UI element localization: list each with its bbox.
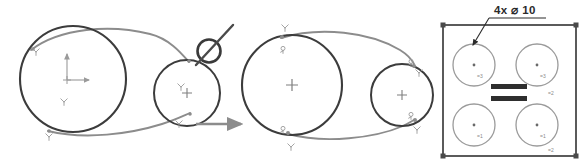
constraint-symbol-line <box>196 25 233 65</box>
origin-label-glyph-icon <box>61 99 67 106</box>
corner-marker <box>574 23 579 28</box>
tangent-glyph-icon <box>46 134 52 141</box>
tangent-constraint-symbol[interactable] <box>196 25 233 65</box>
tangent-glyph-icon <box>414 127 420 134</box>
corner-marker <box>441 154 446 159</box>
coincident-glyph-icon <box>409 112 413 119</box>
equal-bar-lower <box>491 96 527 101</box>
plate-outline[interactable] <box>443 25 576 156</box>
equal-bar-upper <box>491 84 527 89</box>
tangent-point <box>286 131 290 135</box>
hole-label-top-left: =3 <box>477 73 483 79</box>
corner-marker <box>574 154 579 159</box>
dimension-leader <box>473 18 546 45</box>
tangent-point <box>412 64 416 68</box>
label-right-lower: =2 <box>548 147 554 153</box>
origin-cross-icon <box>63 76 71 84</box>
hole-label-bottom-right: =1 <box>540 133 546 139</box>
left-pulley-sketch[interactable] <box>20 26 220 140</box>
tangent-point <box>413 118 417 122</box>
cad-illustration-canvas: =3 =3 =1 =1 =2 =2 4x ⌀ 10 <box>0 0 586 166</box>
tangent-glyph-icon <box>288 144 294 151</box>
corner-marker <box>441 23 446 28</box>
tangent-glyph-icon <box>33 49 39 56</box>
hole-center-point <box>536 64 539 67</box>
label-right-upper: =2 <box>548 90 554 96</box>
leader-diagonal <box>473 18 489 45</box>
belt-upper-left[interactable] <box>31 29 189 62</box>
hole-label-top-right: =3 <box>540 73 546 79</box>
coincident-glyph-icon <box>281 126 285 133</box>
tangent-glyph-icon <box>282 25 288 32</box>
hole-center-point <box>536 124 539 127</box>
left-big-pulley-circle[interactable] <box>20 26 126 132</box>
origin-axes <box>63 54 89 84</box>
coincident-glyph-icon <box>281 46 285 53</box>
tangent-point <box>280 35 284 39</box>
hole-center-point <box>473 124 476 127</box>
right-big-pulley-center-icon <box>286 79 298 91</box>
tangent-glyph-icon <box>178 84 184 91</box>
hole-pattern-panel[interactable]: =3 =3 =1 =1 =2 =2 4x ⌀ 10 <box>441 4 579 159</box>
tangent-point <box>187 59 191 63</box>
hole-center-point <box>473 64 476 67</box>
tangent-point <box>47 129 51 133</box>
drawing-surface: =3 =3 =1 =1 =2 =2 4x ⌀ 10 <box>0 0 586 166</box>
right-pulley-sketch[interactable] <box>242 25 433 151</box>
left-small-pulley-center-icon <box>182 88 192 98</box>
tangent-glyph-icon <box>416 70 422 77</box>
tangent-point <box>188 112 192 116</box>
dimension-callout-text: 4x ⌀ 10 <box>494 4 536 16</box>
belt-lower-right[interactable] <box>288 120 414 139</box>
hole-label-bottom-left: =1 <box>477 133 483 139</box>
right-small-pulley-center-icon <box>397 90 407 100</box>
